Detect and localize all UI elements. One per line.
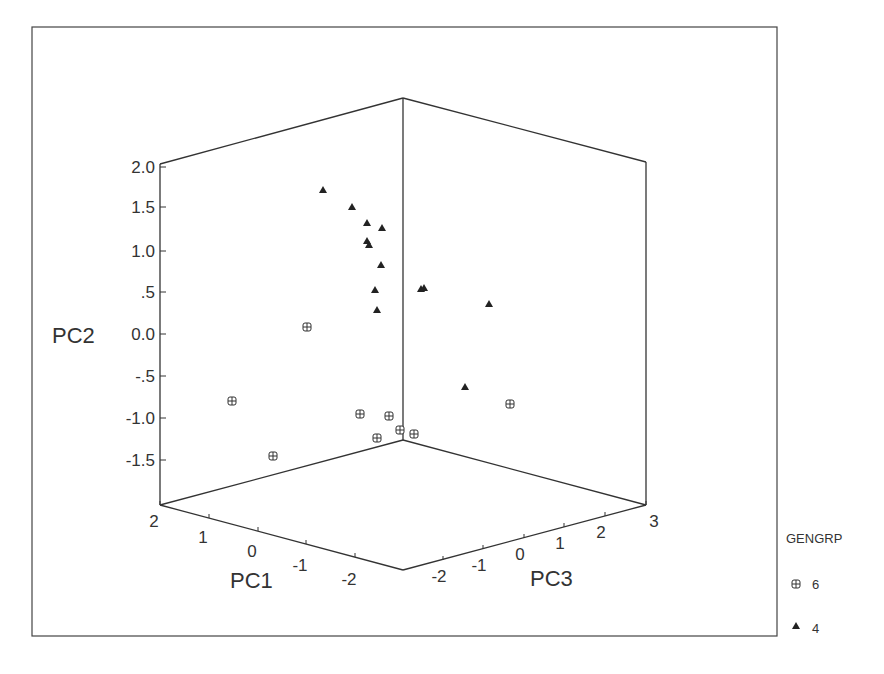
pc2-tick-label: 1.5 — [131, 198, 155, 217]
square-cross-point-icon — [385, 412, 393, 420]
pc3-tick-label: -2 — [431, 567, 446, 586]
legend-marker-6-icon — [792, 580, 800, 588]
pc2-tick-label: .5 — [141, 283, 155, 302]
pc2-tick-label: 2.0 — [131, 158, 155, 177]
square-cross-point-icon — [356, 410, 364, 418]
pc2-tick-label: 1.0 — [131, 242, 155, 261]
triangle-point-icon — [348, 203, 356, 210]
triangle-point-icon — [363, 219, 371, 226]
pc3-tick-label: 0 — [515, 545, 524, 564]
legend-label-4: 4 — [812, 621, 819, 636]
square-cross-point-icon — [396, 426, 404, 434]
pc2-tick-label: -.5 — [135, 367, 155, 386]
square-cross-point-icon — [410, 430, 418, 438]
triangle-point-icon — [319, 186, 327, 193]
triangle-point-icon — [378, 224, 386, 231]
pc2-axis-label: PC2 — [52, 323, 95, 348]
pc1-tick-label: -2 — [341, 570, 356, 589]
triangle-point-icon — [485, 300, 493, 307]
data-points — [228, 186, 514, 460]
legend-title: GENGRP — [786, 531, 842, 546]
square-cross-point-icon — [269, 452, 277, 460]
legend-marker-4-icon — [792, 622, 800, 629]
triangle-point-icon — [461, 383, 469, 390]
pc3-tick-label: 3 — [649, 512, 658, 531]
pc2-tick-label: -1.5 — [126, 451, 155, 470]
square-cross-point-icon — [373, 434, 381, 442]
scatter-3d-chart: 2.01.51.0.50.0-.5-1.0-1.5 210-1-2 -2-101… — [0, 0, 884, 674]
pc3-tick-label: 2 — [596, 523, 605, 542]
square-cross-point-icon — [506, 400, 514, 408]
pc1-tick-label: 1 — [198, 528, 207, 547]
triangle-point-icon — [373, 306, 381, 313]
pc3-axis-label: PC3 — [530, 566, 573, 591]
pc2-tick-label: 0.0 — [131, 325, 155, 344]
pc2-tick-label: -1.0 — [126, 409, 155, 428]
triangle-point-icon — [377, 261, 385, 268]
pc1-tick-label: -1 — [292, 556, 307, 575]
pc3-tick-label: -1 — [471, 556, 486, 575]
legend-label-6: 6 — [812, 577, 819, 592]
pc1-tick-label: 0 — [247, 542, 256, 561]
triangle-point-icon — [371, 286, 379, 293]
axes-box — [160, 98, 646, 570]
pc3-tick-label: 1 — [555, 534, 564, 553]
square-cross-point-icon — [228, 397, 236, 405]
pc1-tick-label: 2 — [149, 512, 158, 531]
square-cross-point-icon — [303, 323, 311, 331]
pc1-axis-label: PC1 — [230, 568, 273, 593]
